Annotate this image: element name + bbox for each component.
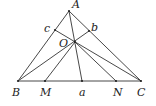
label-N: N	[112, 86, 123, 99]
label-O: O	[59, 37, 68, 50]
point-B	[17, 80, 19, 82]
point-labels: ABCMaNcbO	[11, 0, 146, 99]
point-c	[54, 29, 56, 31]
label-A: A	[71, 0, 80, 11]
segments	[18, 11, 141, 81]
segment-Bb	[18, 31, 89, 81]
label-b: b	[91, 21, 98, 34]
point-O	[74, 41, 76, 43]
point-a	[81, 80, 83, 82]
point-C	[140, 80, 142, 82]
label-c: c	[44, 22, 50, 35]
point-A	[68, 10, 70, 12]
geometry-diagram: ABCMaNcbO	[0, 0, 156, 106]
point-N	[115, 80, 117, 82]
label-a: a	[79, 86, 86, 99]
point-b	[88, 30, 90, 32]
label-C: C	[137, 86, 146, 99]
point-M	[44, 80, 46, 82]
label-B: B	[11, 86, 20, 99]
label-M: M	[39, 86, 52, 99]
